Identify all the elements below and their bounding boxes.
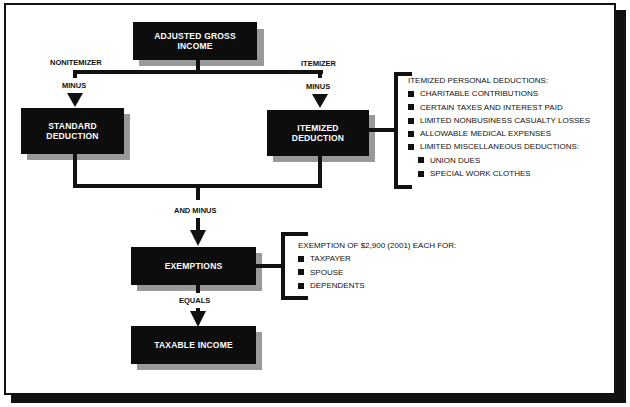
list-item: CERTAIN TAXES AND INTEREST PAID <box>408 101 590 114</box>
list-item: CHARITABLE CONTRIBUTIONS <box>408 87 590 100</box>
list-item: TAXPAYER <box>298 252 456 265</box>
bracket <box>281 296 308 300</box>
square-bullet-icon <box>298 283 304 289</box>
frame-shadow <box>11 395 626 403</box>
square-bullet-icon <box>298 269 304 275</box>
bracket <box>394 185 412 189</box>
bracket <box>281 232 308 236</box>
bracket <box>394 72 398 189</box>
connector-line <box>196 285 200 293</box>
label-minus: MINUS <box>62 81 86 90</box>
node-label: INCOME <box>177 41 212 51</box>
list-subitem: SPECIAL WORK CLOTHES <box>408 167 590 180</box>
connector-line <box>196 184 200 200</box>
square-bullet-icon <box>298 256 304 262</box>
label-minus: MINUS <box>306 82 330 91</box>
node-label: TAXABLE INCOME <box>154 340 233 350</box>
label-itemizer: ITEMIZER <box>301 59 336 68</box>
list-item: ALLOWABLE MEDICAL EXPENSES <box>408 127 590 140</box>
connector-line <box>256 264 283 268</box>
list-subitem: UNION DUES <box>408 154 590 167</box>
list-title: ITEMIZED PERSONAL DEDUCTIONS: <box>408 74 590 87</box>
list-item: SPOUSE <box>298 266 456 279</box>
list-item: LIMITED NONBUSINESS CASUALTY LOSSES <box>408 114 590 127</box>
connector-line <box>73 70 323 74</box>
node-label: ADJUSTED GROSS <box>154 31 236 41</box>
label-nonitemizer: NONITEMIZER <box>50 58 102 67</box>
node-label: ITEMIZED <box>297 123 338 133</box>
itemized-deductions-list: ITEMIZED PERSONAL DEDUCTIONS: CHARITABLE… <box>408 74 590 180</box>
bracket <box>394 72 412 76</box>
node-label: EXEMPTIONS <box>165 261 223 271</box>
arrow-down-icon <box>67 93 83 107</box>
connector-line <box>73 70 77 78</box>
square-bullet-icon <box>408 118 414 124</box>
connector-line <box>368 128 396 132</box>
connector-line <box>318 70 322 78</box>
list-item: LIMITED MISCELLANEOUS DEDUCTIONS: <box>408 140 590 153</box>
connector-line <box>73 154 77 188</box>
node-itemized-deduction: ITEMIZED DEDUCTION <box>267 110 369 156</box>
square-bullet-icon <box>408 104 414 110</box>
square-bullet-icon <box>408 91 414 97</box>
node-exemptions: EXEMPTIONS <box>131 247 256 285</box>
list-title: EXEMPTION OF $2,900 (2001) EACH FOR: <box>298 239 456 252</box>
square-bullet-icon <box>408 144 414 150</box>
square-bullet-icon <box>408 131 414 137</box>
node-label: STANDARD <box>48 121 97 131</box>
square-bullet-icon <box>418 171 424 177</box>
frame-shadow <box>616 10 626 403</box>
arrow-down-icon <box>312 94 328 108</box>
bracket <box>281 232 285 300</box>
node-taxable-income: TAXABLE INCOME <box>131 326 256 364</box>
label-equals: EQUALS <box>179 296 210 305</box>
node-adjusted-gross-income: ADJUSTED GROSS INCOME <box>133 22 257 60</box>
arrow-down-icon <box>190 311 206 327</box>
node-label: DEDUCTION <box>292 133 344 143</box>
arrow-down-icon <box>190 230 206 246</box>
list-item: DEPENDENTS <box>298 279 456 292</box>
node-label: DEDUCTION <box>46 131 98 141</box>
node-standard-deduction: STANDARD DEDUCTION <box>21 108 124 154</box>
exemptions-list: EXEMPTION OF $2,900 (2001) EACH FOR: TAX… <box>298 239 456 292</box>
label-and-minus: AND MINUS <box>174 206 217 215</box>
square-bullet-icon <box>418 157 424 163</box>
